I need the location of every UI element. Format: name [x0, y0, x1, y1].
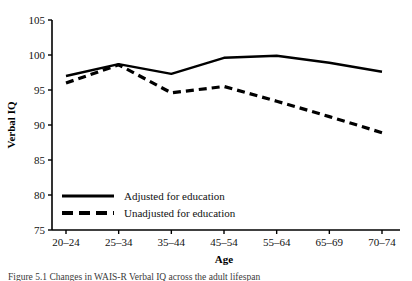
x-axis-title: Age — [215, 253, 233, 265]
y-axis-tick-label: 95 — [34, 84, 46, 96]
line-chart: 7580859095100105 20–2425–3435–4445–5455–… — [0, 0, 412, 281]
figure-caption: Figure 5.1 Changes in WAIS-R Verbal IQ a… — [8, 272, 408, 281]
y-axis-tick-label: 85 — [34, 154, 46, 166]
y-axis-tick-label: 105 — [29, 14, 46, 26]
y-axis-tick-label: 100 — [29, 49, 46, 61]
x-axis-tick-label: 35–44 — [158, 236, 186, 248]
legend-label-2: Unadjusted for education — [124, 207, 236, 219]
x-axis-tick-label: 45–54 — [210, 236, 238, 248]
figure-container: 7580859095100105 20–2425–3435–4445–5455–… — [0, 0, 412, 281]
y-axis-title: Verbal IQ — [5, 101, 17, 148]
x-axis-tick-label: 70–74 — [368, 236, 396, 248]
x-axis-tick-label: 20–24 — [52, 236, 80, 248]
x-axis-tick-label: 25–34 — [105, 236, 133, 248]
legend-label-1: Adjusted for education — [124, 190, 225, 202]
y-axis-tick-label: 90 — [34, 119, 46, 131]
y-axis-tick-label: 75 — [34, 224, 46, 236]
x-axis-tick-label: 65–69 — [316, 236, 344, 248]
y-axis-tick-label: 80 — [34, 189, 46, 201]
x-axis-tick-label: 55–64 — [263, 236, 291, 248]
